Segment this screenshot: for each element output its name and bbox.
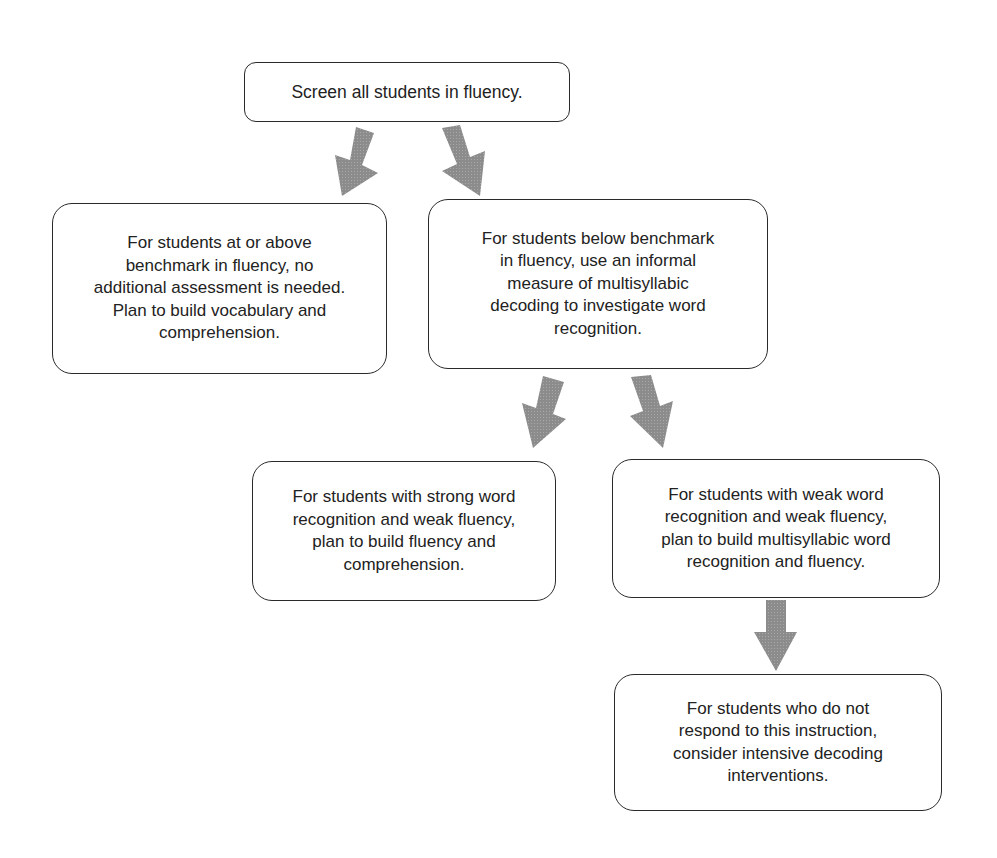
node-text-line: recognition and fluency. <box>661 551 891 574</box>
node-text-line: in fluency, use an informal <box>482 250 714 273</box>
arrow-down-left-icon <box>335 127 378 196</box>
node-text-line: recognition and weak fluency, <box>293 509 516 532</box>
node-below-benchmark: For students below benchmark in fluency,… <box>428 199 768 369</box>
node-text-line: measure of multisyllabic <box>482 273 714 296</box>
node-text-line: comprehension. <box>293 554 516 577</box>
node-text-line: plan to build multisyllabic word <box>661 529 891 552</box>
arrow-down-left-icon <box>522 376 566 448</box>
node-text-line: For students with weak word <box>661 484 891 507</box>
node-text-line: recognition and weak fluency, <box>661 506 891 529</box>
node-text-line: additional assessment is needed. <box>94 277 345 300</box>
node-text-line: For students with strong word <box>293 486 516 509</box>
node-strong-word-recognition: For students with strong word recognitio… <box>252 461 556 601</box>
node-text-line: benchmark in fluency, no <box>94 255 345 278</box>
node-text-line: For students at or above <box>94 232 345 255</box>
node-screen-all-students: Screen all students in fluency. <box>244 62 570 122</box>
node-text-line: For students below benchmark <box>482 228 714 251</box>
node-text-line: Plan to build vocabulary and <box>94 300 345 323</box>
node-weak-word-recognition: For students with weak word recognition … <box>612 459 940 598</box>
node-text-line: comprehension. <box>94 322 345 345</box>
arrow-down-icon <box>754 600 797 671</box>
node-text-line: For students who do not <box>673 698 883 721</box>
arrow-down-right-icon <box>442 125 485 196</box>
arrow-down-right-icon <box>630 375 673 448</box>
node-at-or-above-benchmark: For students at or above benchmark in fl… <box>52 203 387 374</box>
node-text-line: plan to build fluency and <box>293 531 516 554</box>
node-text: Screen all students in fluency. <box>291 81 522 104</box>
node-text-line: consider intensive decoding <box>673 743 883 766</box>
node-text-line: recognition. <box>482 318 714 341</box>
node-text-line: respond to this instruction, <box>673 720 883 743</box>
node-text-line: interventions. <box>673 765 883 788</box>
node-text-line: decoding to investigate word <box>482 295 714 318</box>
node-no-response-intervention: For students who do not respond to this … <box>614 674 942 811</box>
